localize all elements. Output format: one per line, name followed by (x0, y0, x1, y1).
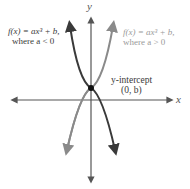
negative-curve-equation: f(x) = ax³ + b, (8, 26, 60, 36)
negative-curve-condition: where a < 0 (8, 36, 60, 46)
cubic-function-diagram: y x f(x) = ax³ + b, where a < 0 f(x) = a… (0, 0, 190, 189)
intercept-label: y-intercept (0, b) (111, 75, 152, 95)
x-axis-label: x (176, 93, 181, 105)
y-intercept-point (88, 85, 94, 91)
positive-curve-equation: f(x) = ax³ + b, (123, 27, 175, 37)
intercept-coordinates: (0, b) (111, 85, 152, 95)
y-axis-label: y (87, 0, 92, 12)
intercept-title: y-intercept (111, 75, 152, 85)
positive-curve-condition: where a > 0 (123, 37, 175, 47)
negative-curve-label: f(x) = ax³ + b, where a < 0 (8, 26, 60, 46)
positive-curve-label: f(x) = ax³ + b, where a > 0 (123, 27, 175, 47)
curve-a-negative (70, 26, 91, 88)
